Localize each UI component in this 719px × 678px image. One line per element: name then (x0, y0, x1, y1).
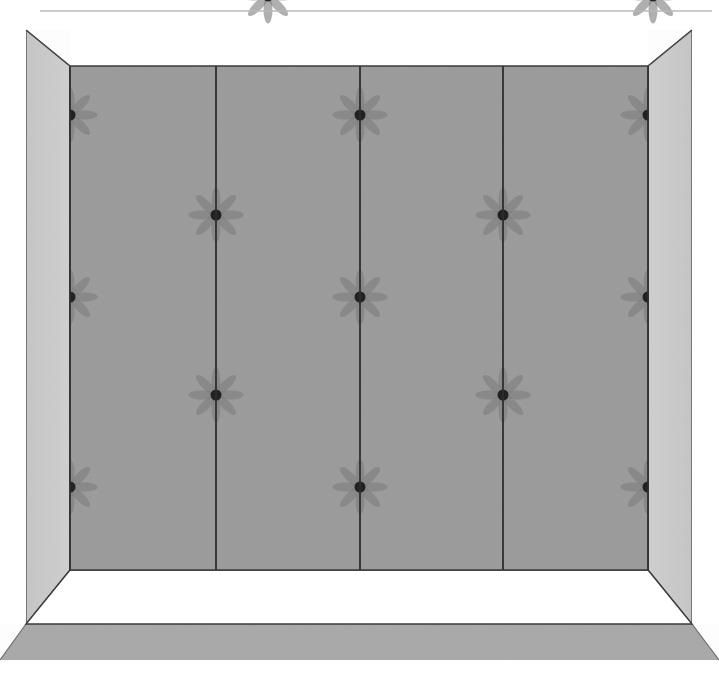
left-wall (26, 30, 70, 624)
baseboard (26, 570, 692, 624)
room-scene (0, 0, 719, 678)
right-wall (648, 30, 692, 624)
floor (0, 624, 719, 660)
room-visualization-canvas (0, 0, 719, 678)
lower-white-margin (0, 660, 719, 678)
